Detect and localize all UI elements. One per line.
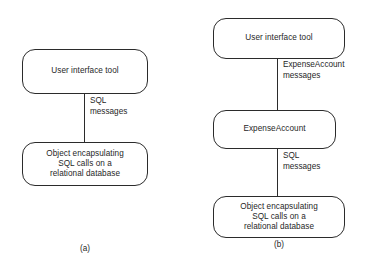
panel-a-node-user-interface-tool-label: User interface tool bbox=[51, 66, 118, 76]
panel-a-node-sql-wrapper-label: Object encapsulating SQL calls on a rela… bbox=[46, 149, 123, 180]
panel-a-edge-ui-to-db bbox=[84, 93, 85, 143]
panel-b-node-user-interface-tool: User interface tool bbox=[213, 18, 345, 59]
panel-b-node-expense-account-label: ExpenseAccount bbox=[243, 124, 305, 134]
panel-a-node-sql-wrapper: Object encapsulating SQL calls on a rela… bbox=[22, 142, 148, 186]
panel-a-node-user-interface-tool: User interface tool bbox=[22, 49, 148, 94]
panel-a-caption: (a) bbox=[65, 244, 105, 253]
figure-canvas: User interface tool SQL messages Object … bbox=[0, 0, 376, 277]
panel-b-edge-expense-to-db-label: SQL messages bbox=[283, 151, 320, 172]
panel-b-caption: (b) bbox=[259, 240, 299, 249]
panel-b-node-sql-wrapper: Object encapsulating SQL calls on a rela… bbox=[213, 196, 345, 238]
panel-b-edge-ui-to-expense-label: ExpenseAccount messages bbox=[283, 60, 344, 81]
panel-a-edge-ui-to-db-label: SQL messages bbox=[90, 96, 127, 117]
panel-b-node-expense-account: ExpenseAccount bbox=[213, 110, 336, 149]
panel-b-edge-ui-to-expense bbox=[277, 58, 278, 111]
panel-b-node-user-interface-tool-label: User interface tool bbox=[245, 33, 312, 43]
panel-b-node-sql-wrapper-label: Object encapsulating SQL calls on a rela… bbox=[240, 202, 317, 233]
panel-b-edge-expense-to-db bbox=[277, 148, 278, 197]
